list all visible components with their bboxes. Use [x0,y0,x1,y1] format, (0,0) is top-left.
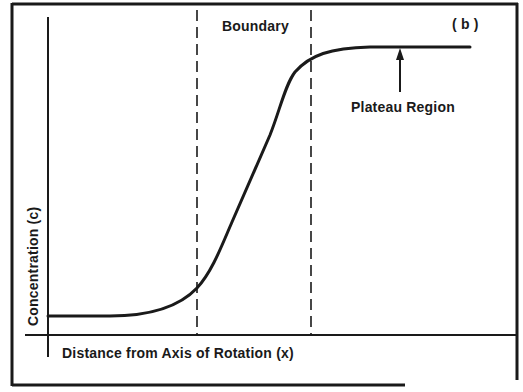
x-axis-label: Distance from Axis of Rotation (x) [62,345,294,361]
plateau-region-label: Plateau Region [351,99,455,115]
y-axis-label: Concentration (c) [25,207,41,326]
boundary-label: Boundary [222,18,289,34]
concentration-curve [48,47,470,316]
arrow-head-icon [396,48,404,60]
panel-label: ( b ) [452,16,479,32]
plateau-arrow [396,48,404,92]
sedimentation-boundary-diagram: Boundary ( b ) Plateau Region Distance f… [0,0,523,392]
outer-frame [12,3,518,386]
